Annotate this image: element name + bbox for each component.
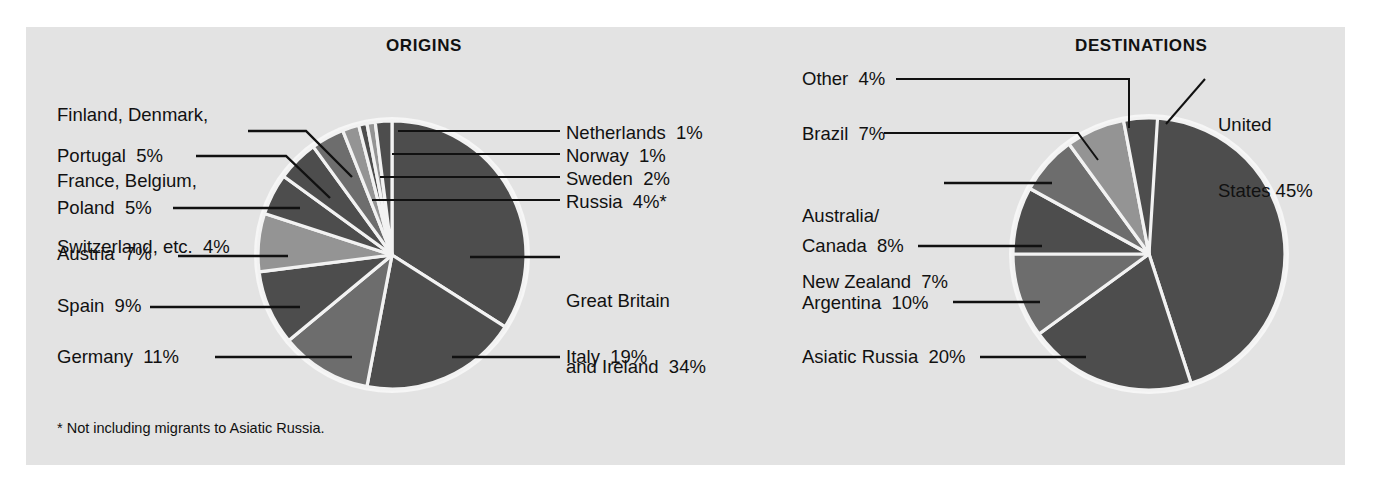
label-origins-poland: Poland 5% (57, 197, 152, 219)
label-destinations-united-states: United States 45% (1218, 70, 1313, 246)
label-destinations-canada: Canada 8% (802, 235, 904, 257)
label-line: United (1218, 114, 1313, 136)
label-origins-russia: Russia 4%* (566, 191, 667, 213)
label-line: Great Britain (566, 290, 706, 312)
label-line: New Zealand 7% (802, 271, 948, 293)
infographic-root: ORIGINS DESTINATIONS Finland, Denmark, F… (0, 0, 1374, 494)
label-origins-portugal: Portugal 5% (57, 145, 163, 167)
label-line: Australia/ (802, 205, 948, 227)
chart-title-origins: ORIGINS (386, 36, 462, 56)
label-destinations-brazil: Brazil 7% (802, 123, 885, 145)
label-line: France, Belgium, (57, 170, 230, 192)
chart-title-destinations: DESTINATIONS (1075, 36, 1208, 56)
label-line: States 45% (1218, 180, 1313, 202)
footnote-origins: * Not including migrants to Asiatic Russ… (57, 420, 325, 436)
label-origins-italy: Italy 19% (566, 346, 647, 368)
label-destinations-argentina: Argentina 10% (802, 292, 929, 314)
label-origins-netherlands: Netherlands 1% (566, 122, 703, 144)
label-origins-finland-group: Finland, Denmark, France, Belgium, Switz… (57, 60, 230, 302)
label-destinations-asiatic-russia: Asiatic Russia 20% (802, 346, 965, 368)
label-origins-norway: Norway 1% (566, 145, 666, 167)
label-destinations-other: Other 4% (802, 68, 885, 90)
label-origins-spain: Spain 9% (57, 295, 141, 317)
label-origins-sweden: Sweden 2% (566, 168, 670, 190)
label-line: Finland, Denmark, (57, 104, 230, 126)
label-origins-austria: Austria 7% (57, 243, 152, 265)
label-origins-great-britain: Great Britain and Ireland 34% (566, 246, 706, 422)
label-origins-germany: Germany 11% (57, 346, 179, 368)
